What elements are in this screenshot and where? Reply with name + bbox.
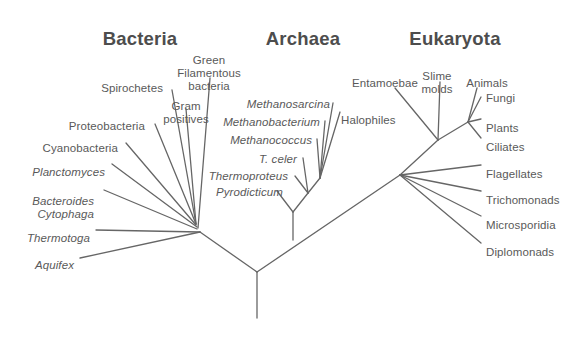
taxon-label-entamoebae: Entamoebae [352, 77, 418, 90]
branch-euk-to-microsporidia [400, 175, 481, 216]
taxon-label-plants: Plants [486, 122, 519, 135]
branch-upper-to-methanococcus [317, 139, 320, 178]
taxon-label-trichomonads: Trichomonads [486, 194, 560, 207]
taxon-label-methanosarcina: Methanosarcina [247, 98, 330, 111]
branch-arch-to-crown [293, 193, 308, 212]
taxon-label-planctomyces: Planctomyces [32, 166, 105, 179]
branch-root-to-bacteria [200, 232, 257, 272]
taxon-label-proteobacteria: Proteobacteria [69, 120, 145, 133]
taxon-label-animals: Animals [466, 77, 508, 90]
branch-euk-upper-to-fungi [468, 97, 481, 122]
taxon-label-microsporidia: Microsporidia [486, 219, 556, 232]
branch-euk-to-diplomonads [400, 175, 481, 243]
branch-bact-node-to-aquifex [80, 232, 200, 258]
phylogenetic-tree-figure: BacteriaArchaeaEukaryota SpirochetesGree… [0, 0, 580, 338]
taxon-label-t-celer: T. celer [259, 153, 297, 166]
branch-euk-upper-to-animals [468, 88, 477, 122]
taxon-label-cyanobacteria: Cyanobacteria [43, 142, 118, 155]
taxon-label-fungi: Fungi [486, 92, 515, 105]
taxon-label-ciliates: Ciliates [486, 141, 525, 154]
branch-bact-node-to-thermotoga [96, 230, 200, 232]
taxon-label-green-filamentous: Green Filamentous bacteria [177, 54, 241, 94]
taxon-label-methanobacterium: Methanobacterium [223, 116, 320, 129]
taxon-label-slime-molds: Slime molds [421, 70, 452, 96]
branch-bact-node-to-cyano [126, 143, 196, 225]
taxon-label-diplomonads: Diplomonads [486, 246, 554, 259]
taxon-label-methanococcus: Methanococcus [230, 134, 312, 147]
branch-euk-crown-to-upper [438, 122, 468, 140]
taxon-label-pyrodicticum: Pyrodicticum [216, 186, 283, 199]
branch-euk-to-trichomonads [400, 175, 481, 191]
branch-euk-upper-to-ciliates [468, 122, 481, 138]
branch-bact-node-to-proteo [155, 124, 196, 224]
taxon-label-halophiles: Halophiles [341, 114, 396, 127]
taxon-label-flagellates: Flagellates [486, 168, 543, 181]
taxon-label-thermoproteus: Thermoproteus [209, 170, 288, 183]
branch-crown-to-upper [308, 178, 320, 193]
branch-euk-to-flagellates [400, 165, 481, 175]
domain-title-bacteria: Bacteria [103, 28, 178, 50]
taxon-label-bacteroides-cytophaga: Bacteroides Cytophaga [32, 195, 94, 221]
taxon-label-spirochetes: Spirochetes [101, 82, 163, 95]
taxon-label-aquifex: Aquifex [35, 259, 74, 272]
domain-title-eukaryota: Eukaryota [409, 28, 500, 50]
taxon-label-gram-positives: Gram positives [163, 100, 209, 126]
domain-title-archaea: Archaea [266, 28, 340, 50]
branch-euk-to-crown [400, 140, 438, 175]
taxon-label-thermotoga: Thermotoga [27, 232, 90, 245]
